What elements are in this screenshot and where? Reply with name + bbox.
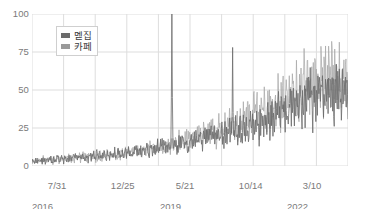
legend-swatch-icon [61,33,70,38]
x-tick-line1: 3/10 [303,180,322,191]
x-tick-line1: 12/25 [111,180,135,191]
x-tick-label: 5/21 2019 [160,170,194,209]
y-tick-label: 50 [3,85,29,95]
legend-item-matjip: 멛집 [61,30,92,41]
y-tick-label: 25 [3,123,29,133]
x-tick-line1: 10/14 [239,180,263,191]
legend-item-cafe: 카페 [61,41,92,52]
x-tick-label: 12/25 [95,170,135,209]
x-tick-line2: 2016 [32,202,66,210]
chart-legend: 멛집 카페 [56,26,98,56]
legend-label: 카페 [74,41,92,52]
legend-swatch-icon [61,44,70,49]
x-tick-line2: 2022 [287,202,321,210]
x-axis: 7/31 2016 12/25 5/21 2019 10/14 3/10 202… [0,170,371,200]
search-trend-chart: 100 75 50 25 0 7/31 2016 12/25 5/21 2019… [0,0,371,209]
x-tick-label: 10/14 [223,170,263,209]
x-tick-label: 7/31 2016 [32,170,66,209]
x-tick-line1: 7/31 [48,180,67,191]
y-tick-label: 75 [3,47,29,57]
legend-label: 멛집 [74,30,92,41]
x-tick-label: 3/10 2022 [287,170,321,209]
y-tick-label: 100 [3,9,29,19]
x-tick-line1: 5/21 [176,180,195,191]
x-tick-line2: 2019 [160,202,194,210]
